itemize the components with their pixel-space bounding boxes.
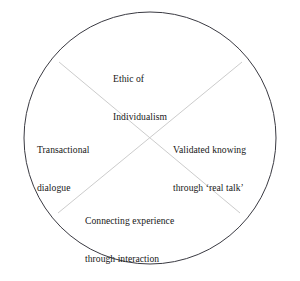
quadrant-label-left: Transactional dialogue xyxy=(37,119,90,220)
quadrant-label-right-line-1: Validated knowing xyxy=(173,144,246,157)
quadrant-label-top: Ethic of Individualism xyxy=(113,48,167,149)
quadrant-label-right-line-2: through ‘real talk’ xyxy=(173,182,246,195)
quadrant-label-bottom-line-2: through interaction xyxy=(85,253,174,266)
quadrant-label-left-line-2: dialogue xyxy=(37,182,90,195)
quadrant-label-top-line-1: Ethic of xyxy=(113,73,167,86)
circle-quadrant-diagram: Ethic of Individualism Transactional dia… xyxy=(0,0,300,281)
quadrant-label-bottom: Connecting experience through interactio… xyxy=(85,190,174,281)
quadrant-label-right: Validated knowing through ‘real talk’ xyxy=(173,119,246,220)
quadrant-label-left-line-1: Transactional xyxy=(37,144,90,157)
quadrant-label-top-line-2: Individualism xyxy=(113,111,167,124)
quadrant-label-bottom-line-1: Connecting experience xyxy=(85,215,174,228)
